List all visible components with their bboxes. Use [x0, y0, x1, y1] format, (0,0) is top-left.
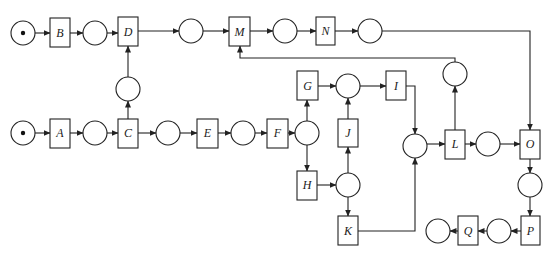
transition-P: P	[521, 216, 540, 245]
transition-A: A	[50, 119, 70, 148]
place	[476, 132, 500, 156]
transition-G: G	[297, 71, 318, 100]
place	[295, 121, 319, 145]
transition-label: H	[302, 178, 313, 192]
transition-label: Q	[464, 224, 473, 238]
place	[443, 62, 467, 86]
transition-label: B	[56, 26, 64, 40]
transition-label: M	[234, 25, 246, 39]
token-icon	[21, 131, 25, 135]
transition-label: J	[345, 126, 351, 140]
transition-label: E	[203, 126, 212, 140]
place	[358, 19, 382, 43]
transition-label: F	[273, 126, 282, 140]
token-icon	[21, 31, 25, 35]
transition-M: M	[229, 17, 250, 46]
transition-Q: Q	[458, 216, 478, 245]
transition-L: L	[445, 130, 465, 159]
place	[156, 121, 180, 145]
arc	[358, 158, 415, 231]
transition-J: J	[338, 119, 358, 147]
transition-H: H	[297, 171, 317, 200]
petri-net-diagram: B D M N A C E F	[0, 0, 553, 253]
transition-N: N	[316, 17, 335, 45]
place	[336, 74, 360, 98]
transition-label: L	[451, 137, 459, 151]
transition-label: G	[303, 79, 312, 93]
transition-C: C	[118, 119, 138, 148]
transition-D: D	[118, 17, 138, 46]
place	[273, 19, 297, 43]
place	[116, 77, 140, 101]
arc	[240, 46, 455, 62]
transition-label: N	[320, 24, 330, 38]
place	[403, 134, 427, 158]
place	[231, 121, 255, 145]
transition-label: C	[124, 126, 133, 140]
transition-K: K	[338, 216, 358, 245]
transition-label: D	[123, 25, 133, 39]
arc	[406, 86, 415, 134]
place-end	[426, 219, 450, 243]
transition-label: O	[526, 137, 535, 151]
transition-label: A	[55, 126, 64, 140]
place	[518, 173, 542, 197]
place	[83, 21, 107, 45]
place	[83, 121, 107, 145]
transition-label: K	[343, 224, 353, 238]
transition-F: F	[267, 119, 288, 148]
place	[487, 219, 511, 243]
transition-label: P	[526, 224, 535, 238]
transition-O: O	[520, 130, 540, 159]
place	[179, 19, 203, 43]
transition-I: I	[386, 71, 406, 100]
place	[336, 173, 360, 197]
transition-E: E	[197, 119, 218, 148]
transition-B: B	[50, 18, 70, 47]
